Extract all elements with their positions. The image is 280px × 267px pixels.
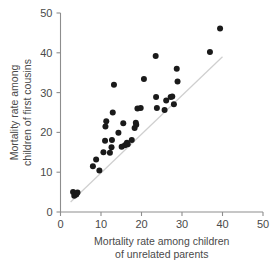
scatter-chart: 0102030405001020304050Mortality rate amo… <box>0 0 280 267</box>
data-point <box>93 156 99 162</box>
x-tick-label: 10 <box>95 218 107 230</box>
data-point <box>109 137 115 143</box>
y-tick-label: 50 <box>40 7 52 19</box>
x-axis-title: of unrelated parents <box>115 248 208 260</box>
data-point <box>175 78 181 84</box>
data-point <box>120 120 126 126</box>
data-point <box>133 122 139 128</box>
y-tick-label: 30 <box>40 87 52 99</box>
data-point <box>174 66 180 72</box>
y-tick-label: 10 <box>40 166 52 178</box>
data-point <box>111 82 117 88</box>
data-point <box>90 163 96 169</box>
data-point <box>110 110 116 116</box>
data-point <box>207 49 213 55</box>
data-point <box>141 76 147 82</box>
data-point <box>107 150 113 156</box>
data-point <box>102 123 108 129</box>
data-point <box>102 138 108 144</box>
data-point <box>217 26 223 32</box>
y-tick-label: 20 <box>40 126 52 138</box>
x-tick-label: 20 <box>135 218 147 230</box>
data-point <box>154 105 160 111</box>
y-axis-title: Mortality rate among <box>8 64 20 160</box>
data-point <box>153 53 159 59</box>
data-point <box>115 130 121 136</box>
data-point <box>171 101 177 107</box>
data-point <box>153 94 159 100</box>
x-tick-label: 30 <box>176 218 188 230</box>
x-axis-title: Mortality rate among children <box>94 235 230 247</box>
data-point <box>103 118 109 124</box>
data-point <box>109 144 115 150</box>
data-point <box>138 105 144 111</box>
data-point <box>75 189 81 195</box>
data-point <box>169 94 175 100</box>
x-tick-label: 50 <box>257 218 269 230</box>
x-tick-label: 0 <box>57 218 63 230</box>
data-point <box>129 137 135 143</box>
data-point <box>96 168 102 174</box>
plot-area: 0102030405001020304050Mortality rate amo… <box>0 0 280 267</box>
y-tick-label: 40 <box>40 47 52 59</box>
x-tick-label: 40 <box>216 218 228 230</box>
data-point <box>100 149 106 155</box>
y-tick-label: 0 <box>46 206 52 218</box>
data-point <box>162 107 168 113</box>
y-axis-title: children of first cousins <box>21 59 33 166</box>
